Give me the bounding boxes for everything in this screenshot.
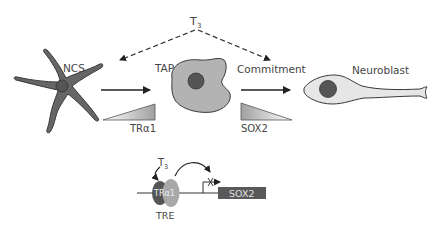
t3-binding-arrow [155, 167, 160, 180]
ncs-cell-icon [14, 49, 103, 133]
stage-label-tap: TAP [154, 62, 174, 74]
t3-to-ncs-dashed-arrow [120, 30, 195, 60]
stage-label-neuroblast: Neuroblast [352, 64, 409, 76]
stage-label-commitment: Commitment [237, 63, 306, 75]
svg-text:3: 3 [197, 22, 201, 30]
repression-curved-arrow [175, 163, 210, 176]
promoter-diagram: T 3 TRα1 TRE SOX2 [137, 157, 266, 221]
neuroblast-cell-icon [304, 75, 427, 104]
t3-to-commitment-dashed-arrow [198, 30, 270, 60]
sox2-gradient-wedge [241, 103, 292, 120]
promoter-t3-subscript: 3 [164, 163, 168, 171]
stage-label-ncs: NCS [63, 62, 85, 74]
ncs-nucleus-icon [56, 80, 68, 92]
neuroblast-nucleus-icon [320, 81, 337, 98]
sox2-gene-label: SOX2 [229, 188, 254, 199]
gradient-label-tra1: TRα1 [129, 123, 156, 134]
receptor-label: TRα1 [153, 189, 175, 198]
gradient-label-sox2: SOX2 [241, 123, 268, 134]
tap-cell-icon [172, 58, 231, 112]
tap-nucleus-icon [188, 73, 204, 89]
differentiation-diagram: T 3 NCS TRα1 TAP Commitment SOX2 Neurobl… [0, 0, 440, 231]
t3-regulator-label: T 3 [189, 15, 201, 30]
tre-label: TRE [155, 210, 174, 221]
svg-text:T: T [189, 15, 197, 28]
tra1-gradient-wedge [103, 104, 155, 120]
